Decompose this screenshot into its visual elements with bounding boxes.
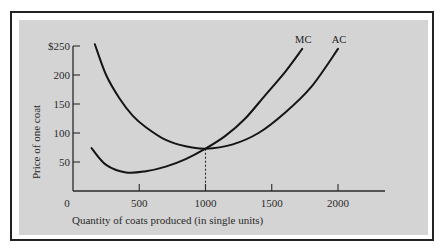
y-tick-label: 50 (59, 156, 71, 168)
x-tick-label: 1500 (261, 197, 284, 209)
y-tick-label: $250 (48, 40, 71, 52)
ac-label: AC (332, 34, 347, 45)
x-axis-title: Quantity of coats produced (in single un… (72, 214, 264, 227)
mc-curve (92, 49, 303, 173)
y-axis-title: Price of one coat (30, 105, 42, 179)
x-tick-label: 0 (64, 197, 70, 209)
cost-curves-chart: 50100150200$2500500100015002000Quantity … (0, 0, 447, 252)
y-tick-label: 100 (54, 127, 71, 139)
mc-label: MC (295, 34, 311, 45)
ac-curve (95, 44, 338, 148)
y-tick-label: 200 (54, 69, 71, 81)
y-tick-label: 150 (54, 98, 71, 110)
x-tick-label: 1000 (195, 197, 218, 209)
x-tick-label: 2000 (327, 197, 350, 209)
x-tick-label: 500 (131, 197, 148, 209)
